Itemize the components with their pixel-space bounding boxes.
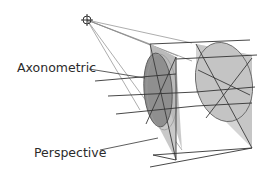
crosshair-circle-icon	[81, 14, 93, 26]
far-plane	[188, 37, 259, 148]
near-plane	[141, 44, 182, 160]
perspective-leader-line	[100, 138, 158, 150]
axonometric-label: Axonometric	[17, 62, 96, 75]
perspective-label: Perspective	[34, 147, 106, 160]
